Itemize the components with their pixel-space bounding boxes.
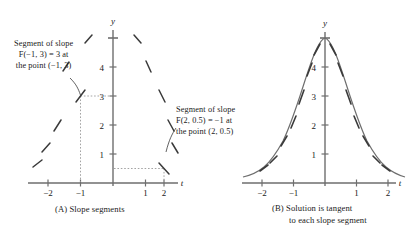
panel-a-y-axis-label: y — [110, 16, 115, 26]
panel-a-ytick-label-3: 3 — [100, 92, 105, 102]
annotation-neg1-3-line2: F(−1, 3) = 3 at — [14, 49, 73, 60]
annotation-point-2-05: Segment of slope F(2, 0.5) = −1 at the p… — [176, 104, 235, 138]
annotation-2-05-line2: F(2, 0.5) = −1 at — [176, 115, 235, 126]
annotation-2-05-line3: the point (2, 0.5) — [176, 126, 235, 137]
panel-a-ytick-label-2: 2 — [100, 121, 105, 131]
panel-b-caption-line1: (B) Solution is tangent — [272, 203, 352, 213]
panel-a-xtick-label-0: −2 — [43, 188, 53, 198]
panel-a-xtick-label-2: 1 — [143, 188, 148, 198]
annotation-neg1-3-line3: the point (−1, 3) — [14, 60, 73, 71]
panel-a-ytick-label-1: 1 — [100, 150, 105, 160]
slope-field-figure: −2 −1 1 2 1 2 3 4 t y — [0, 0, 419, 239]
annotation-2-05-line1: Segment of slope — [176, 104, 235, 115]
panel-b-plot: −2 −1 1 2 1 2 3 4 t y — [242, 18, 405, 198]
panel-a-leader-lines — [70, 78, 176, 152]
panel-b-xtick-label-3: 2 — [386, 188, 391, 198]
annotation-neg1-3-line1: Segment of slope — [14, 38, 73, 49]
panel-b-xtick-label-1: −1 — [289, 188, 299, 198]
panel-a-xtick-label-3: 2 — [162, 188, 167, 198]
panel-b-ytick-label-2: 2 — [312, 121, 317, 131]
panel-b-ytick-label-3: 3 — [312, 92, 317, 102]
panel-a-caption-text: (A) Slope segments — [55, 204, 125, 214]
panel-b-x-axis-label: t — [399, 178, 402, 188]
panel-b-solution-curve — [243, 38, 405, 177]
panel-b-caption-line2: to each slope segment — [272, 215, 367, 227]
panel-a-x-axis-label: t — [181, 178, 184, 188]
panel-a-xtick-label-1: −1 — [76, 188, 86, 198]
annotation-point-neg1-3: Segment of slope F(−1, 3) = 3 at the poi… — [14, 38, 73, 72]
panel-a-ytick-label-4: 4 — [100, 63, 105, 73]
panel-a-guide-point-neg1-3 — [81, 96, 111, 182]
panel-b-xtick-label-0: −2 — [257, 188, 267, 198]
panel-b-ytick-label-1: 1 — [312, 150, 317, 160]
panel-a-caption: (A) Slope segments — [55, 204, 125, 216]
panel-b-y-axis-label: y — [322, 18, 327, 28]
panel-a-guide-point-2-05 — [114, 169, 164, 183]
panel-b-xtick-label-2: 1 — [354, 188, 359, 198]
panel-b-caption: (B) Solution is tangent to each slope se… — [272, 203, 367, 226]
